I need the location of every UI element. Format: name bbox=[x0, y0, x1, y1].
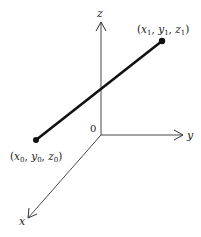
line-segment bbox=[33, 38, 165, 143]
z-axis bbox=[96, 22, 106, 135]
diagram-canvas: z y x 0 (x1, y1, z1) (x0, y0, z0) bbox=[0, 0, 201, 237]
start-point bbox=[33, 137, 39, 143]
origin-label: 0 bbox=[90, 123, 96, 134]
x-axis-label: x bbox=[19, 215, 26, 228]
start-point-label: (x0, y0, z0) bbox=[10, 150, 62, 164]
line-segment-3d-diagram: z y x 0 (x1, y1, z1) (x0, y0, z0) bbox=[0, 0, 201, 237]
end-point bbox=[159, 38, 165, 44]
end-point-label: (x1, y1, z1) bbox=[137, 23, 189, 37]
y-axis bbox=[101, 130, 183, 140]
z-axis-label: z bbox=[96, 7, 103, 20]
x-axis bbox=[28, 135, 101, 218]
y-axis-label: y bbox=[186, 129, 194, 142]
